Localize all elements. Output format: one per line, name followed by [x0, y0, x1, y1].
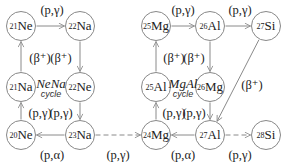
element-symbol: Mg [151, 127, 169, 143]
element-symbol: Na [17, 79, 32, 95]
reaction-label: (p,γ) [40, 3, 63, 18]
mass-number: 23 [68, 131, 76, 140]
reaction-label: (p,γ) [171, 3, 194, 18]
nuclide-ne21: 21Ne [6, 11, 36, 41]
element-symbol: Al [154, 79, 167, 95]
nuclide-al27: 27Al [195, 120, 225, 150]
mass-number: 21 [9, 22, 17, 31]
element-symbol: Mg [151, 18, 169, 34]
element-symbol: Na [76, 127, 91, 143]
mass-number: 20 [9, 131, 17, 140]
nuclide-na23: 23Na [65, 120, 95, 150]
reaction-label: (β⁺) [163, 50, 184, 66]
reaction-label: (p,γ) [182, 106, 205, 121]
cycle-title: NeNa [36, 79, 66, 89]
element-symbol: Al [208, 18, 221, 34]
cycle-label-mgal: MgAlcycle [169, 79, 198, 99]
mass-number: 24 [143, 131, 151, 140]
mass-number: 27 [257, 22, 265, 31]
element-symbol: Al [208, 127, 221, 143]
cycle-title: MgAl [169, 79, 198, 89]
reaction-label: (β⁺) [29, 50, 50, 66]
element-symbol: Ne [17, 127, 32, 143]
element-symbol: Si [265, 127, 276, 143]
nuclide-al26: 26Al [195, 11, 225, 41]
cycle-subtitle: cycle [169, 89, 198, 99]
element-symbol: Mg [205, 79, 223, 95]
mass-number: 21 [9, 83, 17, 92]
mass-number: 27 [200, 131, 208, 140]
nuclide-na22: 22Na [65, 11, 95, 41]
nuclide-na21: 21Na [6, 72, 36, 102]
reaction-label: (β⁺) [183, 50, 204, 66]
reaction-label: (p,γ) [106, 148, 129, 163]
reaction-label: (β⁺) [241, 77, 262, 93]
reaction-label: (β⁺) [50, 50, 71, 66]
cycle-label-nena: NeNacycle [36, 79, 66, 99]
nuclide-ne22: 22Ne [65, 72, 95, 102]
nuclide-mg26: 26Mg [195, 72, 225, 102]
element-symbol: Ne [17, 18, 32, 34]
element-symbol: Si [265, 18, 276, 34]
reaction-label: (p,γ) [28, 106, 51, 121]
mass-number: 25 [146, 83, 154, 92]
nuclide-si28: 28Si [251, 120, 281, 150]
reaction-label: (p,α) [40, 148, 64, 163]
nuclide-al25: 25Al [141, 72, 171, 102]
reaction-label: (p,γ) [228, 148, 251, 163]
mass-number: 22 [68, 22, 76, 31]
mass-number: 26 [197, 83, 205, 92]
element-symbol: Na [76, 18, 91, 34]
reaction-label: (p,α) [171, 148, 195, 163]
mass-number: 22 [68, 83, 76, 92]
nuclide-mg24: 24Mg [141, 120, 171, 150]
nuclide-ne20: 20Ne [6, 120, 36, 150]
nuclide-mg25: 25Mg [141, 11, 171, 41]
reaction-label: (p,γ) [228, 3, 251, 18]
mass-number: 26 [200, 22, 208, 31]
mass-number: 25 [143, 22, 151, 31]
reaction-label: (p,γ) [49, 106, 72, 121]
element-symbol: Ne [76, 79, 91, 95]
nuclide-si27: 27Si [251, 11, 281, 41]
mass-number: 28 [257, 131, 265, 140]
